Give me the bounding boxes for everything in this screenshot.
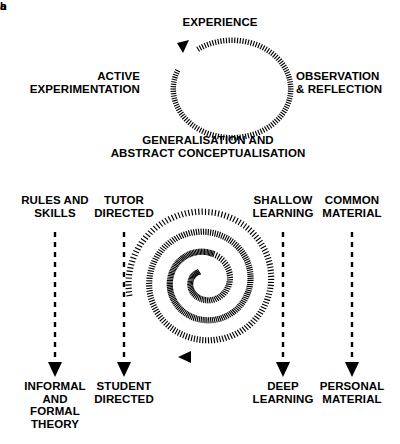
- label-experience: EXPERIENCE: [182, 16, 257, 29]
- label-deep-learning: DEEP LEARNING: [253, 380, 314, 405]
- label-shallow-learning: SHALLOW LEARNING: [253, 194, 314, 219]
- label-common-material: COMMON MATERIAL: [322, 194, 381, 219]
- column-arrow-tutor-student: [117, 232, 131, 377]
- column-arrow-rules-theory: [48, 232, 62, 377]
- label-generalisation: GENERALISATION AND ABSTRACT CONCEPTUALIS…: [111, 134, 306, 159]
- spiral-arrowhead: [178, 351, 191, 363]
- label-observation-reflection: OBSERVATION & REFLECTION: [296, 70, 382, 95]
- label-personal-material: PERSONAL MATERIAL: [320, 380, 385, 405]
- column-arrow-shallow-deep: [276, 232, 290, 377]
- label-informal-formal-theory: INFORMAL AND FORMAL THEORY: [24, 380, 85, 430]
- label-rules-and-skills: RULES AND SKILLS: [21, 194, 89, 219]
- label-student-directed: STUDENT DIRECTED: [94, 380, 154, 405]
- cycle-arrowhead: [177, 40, 189, 53]
- spiral-ticks: [125, 209, 274, 344]
- column-arrow-common-personal: [345, 232, 359, 377]
- label-active-experimentation: ACTIVE EXPERIMENTATION: [30, 70, 140, 95]
- label-tutor-directed: TUTOR DIRECTED: [94, 194, 154, 219]
- cycle-ticks: [171, 38, 294, 141]
- panel-b-letter: b: [0, 0, 7, 12]
